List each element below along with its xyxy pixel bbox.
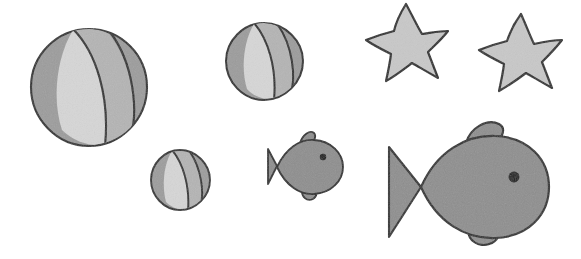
object-ball-large (31, 29, 147, 146)
fish-small-eye (320, 154, 326, 160)
fish-large-eye (509, 172, 520, 183)
shapes-svg (0, 0, 581, 259)
object-ball-small (151, 150, 210, 211)
object-ball-medium (226, 23, 303, 100)
illustration-canvas: Large beach ball Medium beach ball Small… (0, 0, 581, 259)
